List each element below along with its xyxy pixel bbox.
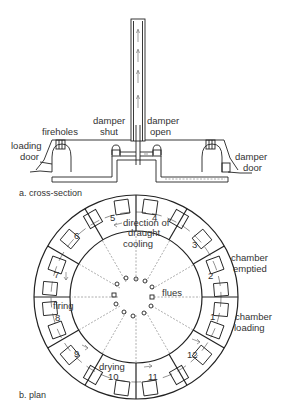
flues (72, 234, 200, 362)
label-damper-door-line1: damper (235, 151, 267, 162)
caption-cross-section: a. cross-section (19, 188, 82, 198)
chamber-number-7: 7 (54, 269, 59, 280)
label-drying: drying (99, 361, 125, 372)
draught-up-arrows-icon (137, 29, 140, 108)
chamber-number-9: 9 (74, 348, 79, 359)
label-damper-open-line2: open (150, 126, 171, 137)
chamber-number-6: 6 (74, 230, 79, 241)
chamber-number-11: 11 (148, 371, 158, 382)
label-firing: firing (53, 300, 74, 311)
label-chamber-loading-line2: loading (234, 322, 265, 333)
cross-section-labels: fireholes loading door damper shut dampe… (11, 115, 267, 198)
label-draught: draught (128, 227, 161, 238)
damper-shut (112, 145, 136, 156)
label-damper-shut-line1: damper (93, 115, 125, 126)
label-chamber-emptied-line1: chamber (231, 252, 268, 263)
cross-section-drawing (30, 19, 252, 182)
label-loading-door-line1: loading (11, 140, 42, 151)
plan-labels: direction of draught cooling chamber emp… (19, 217, 272, 400)
chimney (131, 19, 145, 165)
chamber-number-5: 5 (110, 212, 115, 223)
chamber-number-3: 3 (192, 239, 197, 250)
label-loading-door-line2: door (20, 151, 39, 162)
caption-plan: b. plan (19, 390, 46, 400)
label-damper-open-line1: damper (147, 115, 179, 126)
chamber-number-12: 12 (187, 349, 198, 360)
damper-open (140, 145, 161, 156)
flue-openings (112, 276, 154, 318)
left-chamber (40, 140, 71, 172)
label-fireholes: fireholes (42, 126, 78, 137)
chamber-number-1: 1 (210, 311, 215, 322)
label-flues: flues (162, 287, 182, 298)
chamber-number-2: 2 (208, 270, 213, 281)
chamber-number-8: 8 (55, 312, 60, 323)
label-chamber-emptied-line2: emptied (233, 263, 267, 274)
label-chamber-loading-line1: chamber (235, 311, 272, 322)
label-damper-door-line2: door (243, 162, 262, 173)
kiln-diagram: fireholes loading door damper shut dampe… (0, 0, 291, 413)
label-damper-shut-line2: shut (100, 126, 118, 137)
chamber-number-10: 10 (108, 371, 119, 382)
label-cooling: cooling (123, 238, 153, 249)
